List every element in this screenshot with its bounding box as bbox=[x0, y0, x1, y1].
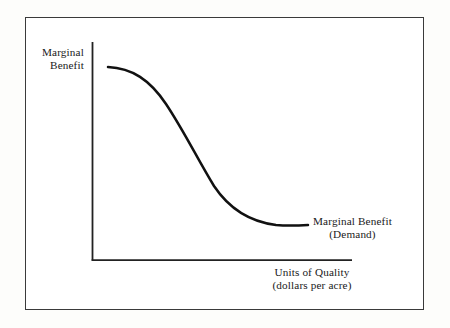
x-axis-label-line-2: (dollars per acre) bbox=[262, 279, 362, 292]
curve-annotation-label: Marginal Benefit (Demand) bbox=[313, 215, 392, 242]
x-axis-label-line-1: Units of Quality bbox=[262, 266, 362, 279]
x-axis-label: Units of Quality (dollars per acre) bbox=[262, 266, 362, 293]
y-axis-label-line-2: Benefit bbox=[20, 59, 84, 72]
curve-label-line-1: Marginal Benefit bbox=[313, 215, 392, 228]
y-axis-label: Marginal Benefit bbox=[20, 46, 84, 73]
curve-label-line-2: (Demand) bbox=[313, 228, 392, 241]
figure-root: Marginal Benefit Marginal Benefit (Deman… bbox=[0, 0, 450, 328]
y-axis-label-line-1: Marginal bbox=[20, 46, 84, 59]
marginal-benefit-curve bbox=[108, 67, 308, 226]
